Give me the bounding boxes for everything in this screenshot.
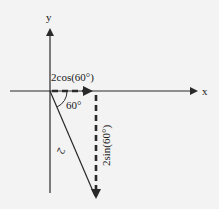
horizontal-component-label: 2cos(60°) xyxy=(51,71,94,84)
diagram-svg: y x 2cos(60°) 2sin(60°) 2 60° xyxy=(0,0,219,209)
x-axis-label: x xyxy=(202,85,208,97)
angle-label: 60° xyxy=(66,99,81,111)
vertical-component-label: 2sin(60°) xyxy=(100,125,113,166)
y-axis-label: y xyxy=(46,11,52,23)
vector-diagram: y x 2cos(60°) 2sin(60°) 2 60° xyxy=(0,0,219,209)
magnitude-label: 2 xyxy=(55,146,68,156)
